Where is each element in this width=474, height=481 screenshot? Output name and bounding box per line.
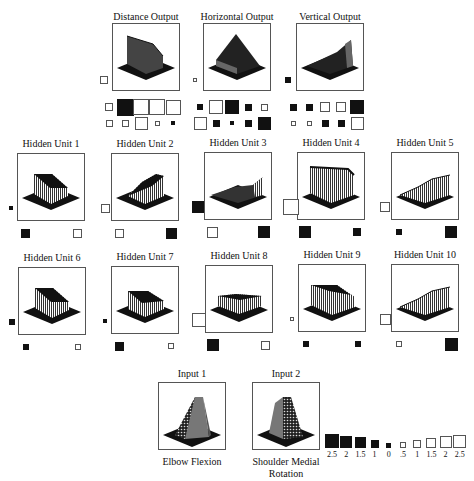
hidden-unit-title: Hidden Unit 1 — [22, 138, 79, 149]
hidden-weight-square — [149, 99, 165, 115]
hidden-weight-square — [350, 100, 364, 114]
input-plot — [252, 382, 320, 450]
input1-weight-square — [115, 342, 124, 351]
input2-weight-square — [261, 341, 270, 350]
input1-weight-square — [396, 341, 402, 347]
hidden-unit-plot — [298, 264, 366, 332]
hidden-unit-plot — [18, 267, 86, 335]
input2-weight-square — [258, 226, 270, 238]
bias-weight-square — [193, 78, 197, 82]
bias-weight-square — [192, 201, 204, 213]
surface-plot — [113, 24, 179, 90]
legend-square — [426, 438, 436, 448]
hidden-unit-title: Hidden Unit 7 — [116, 251, 173, 262]
hidden-weight-square — [171, 121, 175, 125]
hidden-unit-title: Hidden Unit 8 — [210, 250, 267, 261]
input2-weight-square — [353, 228, 361, 236]
hidden-weight-square — [155, 121, 160, 126]
bias-weight-square — [9, 206, 13, 210]
hidden-weight-square — [209, 100, 223, 114]
hidden-weight-square — [320, 102, 330, 112]
input2-weight-square — [73, 229, 82, 238]
legend-square — [453, 435, 466, 448]
legend-label: 2.5 — [327, 450, 337, 459]
hidden-weight-square — [166, 100, 181, 115]
surface-plot — [392, 265, 458, 331]
bias-weight-square — [283, 199, 299, 215]
legend-label: 0 — [387, 450, 391, 459]
input2-weight-square — [355, 341, 361, 347]
hidden-weight-square — [351, 117, 364, 130]
surface-plot — [19, 268, 85, 334]
output-plot-vertical — [296, 23, 364, 91]
input-plot — [158, 382, 226, 450]
surface-plot — [205, 153, 271, 219]
input1-weight-square — [299, 226, 311, 238]
legend-square — [355, 437, 366, 448]
input1-weight-square — [21, 229, 30, 238]
input1-weight-square — [396, 229, 402, 235]
hidden-weight-square — [261, 104, 268, 111]
input-caption: Rotation — [269, 468, 303, 480]
surface-plot — [204, 24, 270, 90]
hidden-unit-title: Hidden Unit 3 — [209, 137, 266, 148]
surface-plot — [112, 267, 178, 333]
bias-weight-square — [9, 319, 15, 325]
legend-square — [386, 443, 391, 448]
hidden-unit-plot — [111, 153, 179, 221]
hidden-weight-square — [213, 120, 220, 127]
hidden-weight-square — [230, 121, 234, 125]
input-title: Input 1 — [178, 368, 207, 379]
surface-plot — [297, 24, 363, 90]
legend-label: 2 — [444, 450, 448, 459]
hidden-weight-square — [135, 117, 148, 130]
input2-weight-square — [166, 228, 177, 239]
hidden-weight-square — [307, 121, 312, 126]
input-title: Input 2 — [272, 368, 301, 379]
hidden-weight-square — [194, 117, 207, 130]
hidden-unit-plot — [17, 153, 85, 221]
hidden-unit-plot — [205, 265, 273, 333]
hidden-weight-square — [258, 117, 271, 130]
hidden-unit-plot — [297, 152, 365, 220]
legend-square — [340, 436, 352, 448]
input1-weight-square — [115, 229, 124, 238]
input2-weight-square — [445, 338, 458, 351]
hidden-weight-square — [133, 99, 149, 115]
hidden-unit-title: Hidden Unit 10 — [394, 249, 456, 260]
surface-plot — [159, 383, 225, 449]
hidden-weight-square — [245, 104, 252, 111]
legend-square — [413, 440, 421, 448]
output-title-distance: Distance Output — [113, 11, 178, 22]
legend-square — [371, 440, 379, 448]
surface-plot — [392, 153, 458, 219]
hidden-unit-title: Hidden Unit 5 — [396, 137, 453, 148]
bias-weight-square — [101, 204, 110, 213]
hidden-weight-square — [117, 99, 134, 116]
legend-label: 2 — [344, 450, 348, 459]
legend-label: 1.5 — [426, 450, 436, 459]
output-title-horizontal: Horizontal Output — [200, 11, 273, 22]
hidden-unit-title: Hidden Unit 9 — [303, 249, 360, 260]
surface-plot — [206, 266, 272, 332]
hidden-weight-square — [338, 120, 345, 127]
output-plot-horizontal — [203, 23, 271, 91]
legend-label: 1.5 — [355, 450, 365, 459]
legend-label: .5 — [400, 450, 406, 459]
hidden-weight-square — [336, 102, 346, 112]
legend-label: 1 — [373, 450, 377, 459]
surface-plot — [298, 153, 364, 219]
legend-label: 2.5 — [455, 450, 465, 459]
surface-plot — [253, 383, 319, 449]
input2-weight-square — [168, 343, 174, 349]
hidden-unit-title: Hidden Unit 6 — [23, 252, 80, 263]
hidden-weight-square — [197, 104, 203, 110]
output-plot-distance — [112, 23, 180, 91]
bias-weight-square — [285, 77, 291, 83]
hidden-weight-square — [306, 104, 313, 111]
bias-weight-square — [100, 76, 108, 84]
input2-weight-square — [445, 226, 457, 238]
surface-plot — [18, 154, 84, 220]
legend-square — [440, 436, 452, 448]
bias-weight-square — [380, 202, 390, 212]
